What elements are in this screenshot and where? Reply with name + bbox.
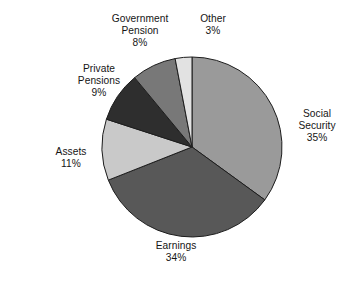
slice-label-assets-line1: Assets	[38, 146, 104, 158]
slice-value-other: 3%	[186, 25, 240, 37]
slice-label-social-security-line2: Security	[288, 120, 346, 132]
slice-label-earnings-line1: Earnings	[130, 240, 222, 252]
slice-label-social-security: Social Security 35%	[288, 108, 346, 145]
slice-value-private-pensions: 9%	[58, 87, 140, 99]
slice-label-assets: Assets 11%	[38, 146, 104, 170]
slice-label-private-pensions-line1: Private	[58, 63, 140, 75]
slice-label-government-pension-line2: Pension	[94, 25, 186, 37]
slice-label-other: Other 3%	[186, 13, 240, 37]
slice-value-assets: 11%	[38, 158, 104, 170]
slice-label-earnings: Earnings 34%	[130, 240, 222, 264]
slice-value-social-security: 35%	[288, 132, 346, 144]
slice-value-earnings: 34%	[130, 252, 222, 264]
slice-label-other-line1: Other	[186, 13, 240, 25]
slice-label-government-pension-line1: Government	[94, 13, 186, 25]
slice-value-government-pension: 8%	[94, 37, 186, 49]
slice-label-private-pensions-line2: Pensions	[58, 75, 140, 87]
pie-chart: Government Pension 8% Other 3% Private P…	[0, 0, 347, 281]
slice-label-social-security-line1: Social	[288, 108, 346, 120]
slice-label-government-pension: Government Pension 8%	[94, 13, 186, 50]
slice-label-private-pensions: Private Pensions 9%	[58, 63, 140, 100]
